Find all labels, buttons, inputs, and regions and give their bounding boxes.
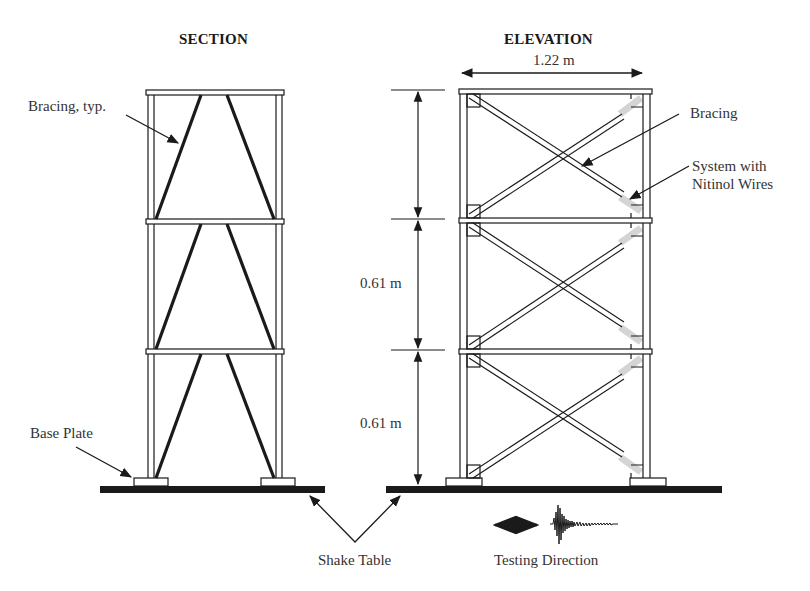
- testing-direction-label: Testing Direction: [494, 552, 598, 569]
- elevation-title: ELEVATION: [504, 31, 593, 48]
- story-height-label-3: 0.61 m: [360, 415, 402, 432]
- elevation-bracing-label: Bracing: [690, 105, 737, 122]
- section-frame: [134, 90, 295, 486]
- base-plate-label: Base Plate: [30, 425, 93, 442]
- story-height-label-2: 0.61 m: [360, 275, 402, 292]
- width-dimension-label: 1.22 m: [533, 52, 575, 69]
- bracing-leader-arrow: [126, 115, 178, 143]
- elevation-bracing-leader-arrow: [582, 114, 679, 166]
- nitinol-leader-arrow: [630, 166, 689, 199]
- nitinol-label-line1: System with: [692, 158, 767, 175]
- base-plate-leader-arrow: [76, 447, 131, 477]
- bracing-typ-label: Bracing, typ.: [28, 98, 106, 115]
- nitinol-label-line2: Nitinol Wires: [692, 176, 773, 193]
- section-title: SECTION: [179, 31, 248, 48]
- section-shake-table: [100, 486, 325, 493]
- section-bracing: [156, 95, 274, 478]
- structure-diagram: [0, 0, 810, 591]
- seismic-waveform-icon: [550, 505, 618, 544]
- shake-table-leader-arrows: [310, 496, 400, 542]
- nitinol-wire-systems: [620, 98, 641, 472]
- elevation-shake-table: [386, 486, 722, 493]
- shake-table-label: Shake Table: [318, 552, 391, 569]
- elevation-bracing: [469, 94, 624, 478]
